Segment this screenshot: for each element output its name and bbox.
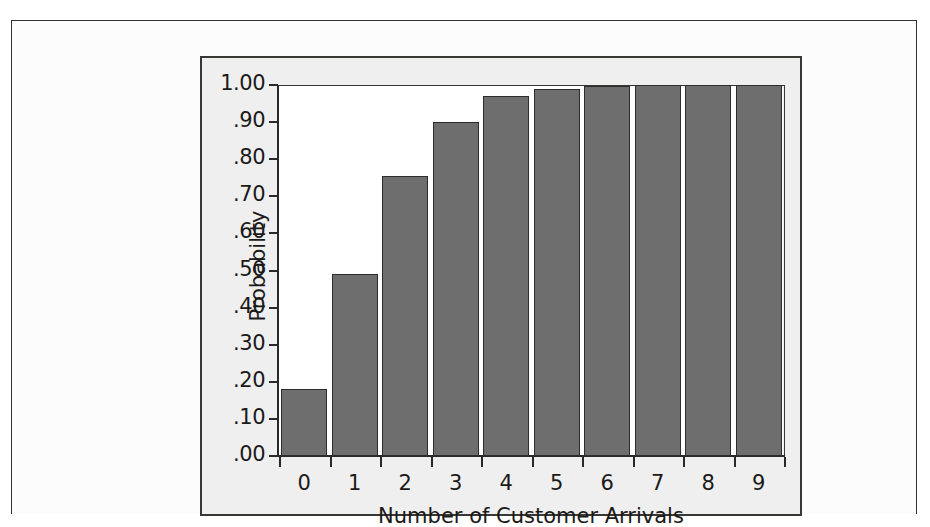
y-axis-tick [269, 455, 278, 457]
x-axis-tick-label: 8 [688, 471, 728, 495]
x-axis-tick [633, 457, 635, 467]
axis-spine-right [784, 85, 785, 456]
bar [281, 389, 327, 456]
x-axis-tick-label: 5 [537, 471, 577, 495]
y-axis-title: Probability [246, 116, 270, 416]
x-axis-tick-label: 1 [335, 471, 375, 495]
x-axis-tick-label: 4 [486, 471, 526, 495]
y-axis-tick [269, 195, 278, 197]
y-axis-tick [269, 344, 278, 346]
page-frame: .00.10.20.30.40.50.60.70.80.901.00 01234… [11, 20, 917, 514]
x-axis-tick [380, 457, 382, 467]
y-axis-tick [269, 307, 278, 309]
x-axis-tick [582, 457, 584, 467]
y-axis-tick [269, 84, 278, 86]
y-axis-tick [269, 121, 278, 123]
bar [635, 85, 681, 456]
bar [534, 89, 580, 456]
bar [483, 96, 529, 456]
y-axis-tick [269, 270, 278, 272]
x-axis-tick [279, 457, 281, 467]
bar [736, 85, 782, 456]
y-axis-tick [269, 232, 278, 234]
x-axis-tick-label: 7 [638, 471, 678, 495]
y-axis-tick-label: .00 [202, 442, 265, 466]
x-axis-tick-label: 6 [587, 471, 627, 495]
x-axis-tick-label: 2 [385, 471, 425, 495]
x-axis-title: Number of Customer Arrivals [277, 504, 785, 527]
bar [433, 122, 479, 456]
x-axis-tick-label: 0 [284, 471, 324, 495]
bar [382, 176, 428, 456]
x-axis-tick [734, 457, 736, 467]
y-axis-tick [269, 158, 278, 160]
chart-figure: .00.10.20.30.40.50.60.70.80.901.00 01234… [200, 56, 802, 516]
y-axis-tick [269, 381, 278, 383]
x-axis-tick [784, 457, 786, 467]
bars-layer [279, 85, 784, 456]
bar [584, 86, 630, 456]
y-axis-tick [269, 418, 278, 420]
x-axis-tick [431, 457, 433, 467]
x-axis-tick-label: 3 [436, 471, 476, 495]
x-axis-tick [532, 457, 534, 467]
y-axis-tick-label: 1.00 [202, 71, 265, 95]
bar [332, 274, 378, 456]
bar [685, 85, 731, 456]
x-axis-tick-label: 9 [739, 471, 779, 495]
x-axis-tick [683, 457, 685, 467]
x-axis-tick [481, 457, 483, 467]
x-axis-tick [330, 457, 332, 467]
